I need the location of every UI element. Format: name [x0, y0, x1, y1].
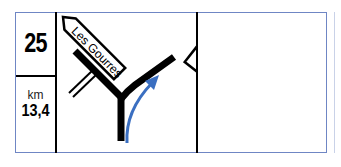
distance-unit: km [16, 88, 55, 102]
junction-diagram: Les Gourres Le Pomeyret [57, 13, 196, 153]
row-divider [16, 75, 55, 77]
column-divider [196, 12, 198, 153]
next-frame-edge [334, 12, 341, 153]
waypoint-number: 25 [20, 28, 51, 59]
distance-value: 13,4 [19, 101, 52, 121]
